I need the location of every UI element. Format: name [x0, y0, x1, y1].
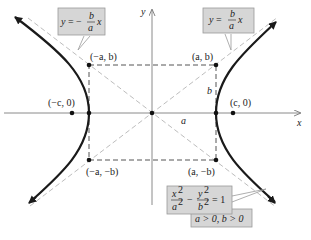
point-neg-a-neg-b [87, 158, 92, 163]
label-segment-a: a [181, 115, 186, 126]
equation-y-den: b [198, 201, 203, 212]
right-callout-pointer [225, 34, 231, 50]
equation-y-exp: 2 [204, 184, 209, 195]
label-c-0: (c, 0) [230, 97, 251, 109]
label-a-b: (a, b) [192, 51, 213, 63]
equation-x-exp: 2 [178, 184, 183, 195]
left-asymptote-callout: y = − b a x [58, 8, 105, 50]
focus-left [70, 111, 75, 116]
asymptote-positive-slope [30, 17, 278, 206]
right-asymptote-callout: y = b a x [203, 8, 254, 50]
right-asymptote-den: a [229, 20, 234, 31]
right-asymptote-lhs: y = [208, 14, 222, 25]
equation-minus: − [187, 194, 193, 205]
equation-rhs: = 1 [212, 194, 225, 205]
right-branch [216, 22, 276, 202]
point-a-neg-b [214, 158, 219, 163]
vertex-right [214, 111, 219, 116]
equation-y-num: y [197, 188, 203, 199]
left-asymptote-var: x [96, 16, 102, 27]
left-callout-pointer [78, 36, 84, 50]
label-segment-b: b [207, 85, 212, 96]
condition-text: a > 0, b > 0 [195, 213, 244, 224]
left-asymptote-lhs: y = − [60, 16, 82, 27]
hyperbola-diagram: x y (−a, b) (a, b) (−a, −b) (a, −b) (c, … [0, 0, 311, 240]
center-point [150, 111, 155, 116]
left-branch-lower-arrow [29, 197, 36, 203]
right-asymptote-var: x [237, 14, 243, 25]
hyperbola-branches [15, 17, 276, 203]
equation-callout: a > 0, b > 0 x 2 a 2 − y 2 b 2 = 1 [167, 184, 266, 227]
equation-x-num: x [171, 188, 177, 199]
point-neg-a-b [87, 63, 92, 68]
x-axis-label: x [296, 117, 302, 128]
left-asymptote-num: b [89, 10, 94, 21]
left-asymptote-den: a [88, 22, 93, 33]
equation-x-den-exp: 2 [178, 196, 183, 207]
label-neg-a-neg-b: (−a, −b) [86, 166, 118, 178]
right-branch-lower-arrow [268, 196, 275, 203]
label-neg-c-0: (−c, 0) [48, 97, 75, 109]
left-callout-pointer-2 [78, 36, 90, 50]
focus-right [231, 111, 236, 116]
label-a-neg-b: (a, −b) [188, 166, 215, 178]
vertex-left [87, 111, 92, 116]
left-branch [15, 17, 89, 202]
point-labels: (−a, b) (a, b) (−a, −b) (a, −b) (c, 0) (… [48, 51, 251, 178]
equation-x-den: a [172, 201, 177, 212]
y-axis-label: y [140, 6, 146, 17]
label-neg-a-b: (−a, b) [90, 51, 117, 63]
right-asymptote-num: b [230, 8, 235, 19]
point-a-b [214, 63, 219, 68]
equation-y-den-exp: 2 [204, 196, 209, 207]
